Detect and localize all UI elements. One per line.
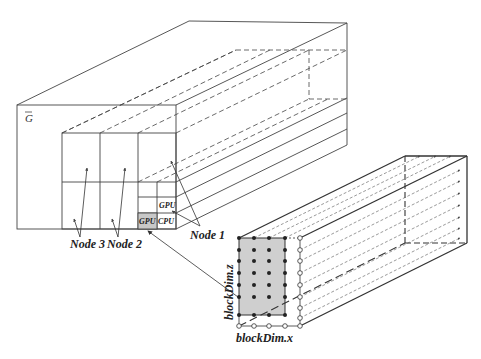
domain-decomposition-diagram: G GPU GPU CPU Node 3 Node 2 Node 1 [0,0,481,359]
cell-label-cpu: CPU [158,217,175,226]
node-3-label: Node 3 [69,237,105,251]
node-1-label: Node 1 [189,228,225,242]
svg-text:G: G [25,112,33,124]
node-2-label: Node 2 [106,237,142,251]
blockdim-x-label: blockDim.x [236,331,293,345]
grid-depth-dashed-lines [62,50,347,182]
blockdim-z-label: blockDim.z [222,264,236,320]
active-thread-region [239,238,285,315]
global-grid-box [17,21,347,229]
grid-front-face [17,105,176,229]
cell-label-gpu-bottom: GPU [139,217,157,226]
grid-label: G [25,112,33,124]
cell-label-gpu-top: GPU [159,201,177,210]
